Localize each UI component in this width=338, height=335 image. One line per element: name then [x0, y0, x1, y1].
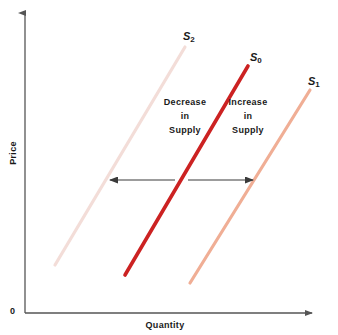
- curve-label-s1-subscript: 1: [315, 80, 319, 89]
- increase-note-line-1: Increase: [208, 95, 288, 109]
- curve-label-s2-subscript: 2: [190, 35, 194, 44]
- origin-label: 0: [10, 306, 15, 316]
- increase-note-line-2: in: [208, 109, 288, 123]
- curve-label-s0-subscript: 0: [257, 56, 261, 65]
- supply-shift-diagram: S2 S0 S1 Decrease in Supply Increase in …: [0, 0, 338, 335]
- increase-in-supply-note: Increase in Supply: [208, 95, 288, 137]
- curve-label-s0: S0: [250, 51, 262, 63]
- y-axis-label: Price: [8, 128, 18, 178]
- x-axis-label: Quantity: [120, 320, 210, 330]
- supply-curve-s2: [55, 47, 185, 265]
- plot-area: [0, 0, 338, 335]
- curve-label-s2: S2: [183, 30, 195, 42]
- increase-note-line-3: Supply: [208, 123, 288, 137]
- curve-label-s1: S1: [308, 75, 320, 87]
